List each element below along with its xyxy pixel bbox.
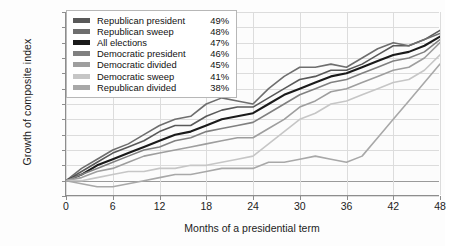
legend-value: 49% [203, 15, 229, 26]
gridline-vertical [440, 12, 441, 195]
x-tick-label: 48 [420, 200, 450, 212]
legend-swatch-icon [73, 18, 90, 23]
legend-value: 47% [203, 37, 229, 48]
x-tick-mark [393, 196, 394, 200]
legend-swatch-icon [73, 74, 90, 79]
legend-label: Republican divided [97, 82, 203, 93]
x-tick-mark [206, 196, 207, 200]
x-tick-label: 42 [373, 200, 413, 212]
legend-label: Democratic sweep [97, 71, 203, 82]
x-tick-label: 0 [46, 200, 86, 212]
x-tick-mark [300, 196, 301, 200]
legend-item: Democratic divided45% [73, 59, 229, 70]
legend-swatch-icon [73, 62, 90, 67]
x-tick-label: 36 [327, 200, 367, 212]
x-tick-mark [160, 196, 161, 200]
x-tick-label: 12 [140, 200, 180, 212]
legend-item: Republican president49% [73, 15, 229, 26]
legend-swatch-icon [73, 40, 90, 45]
legend-value: 45% [203, 59, 229, 70]
x-tick-mark [440, 196, 441, 200]
legend-swatch-icon [73, 85, 90, 90]
y-axis-title: Growth of composite index [21, 12, 33, 192]
legend-item: Republican sweep48% [73, 26, 229, 37]
x-tick-label: 6 [93, 200, 133, 212]
legend-value: 48% [203, 26, 229, 37]
x-tick-label: 30 [280, 200, 320, 212]
legend-label: Republican sweep [97, 26, 203, 37]
legend-value: 38% [203, 82, 229, 93]
legend: Republican president49%Republican sweep4… [66, 10, 237, 98]
x-tick-label: 24 [233, 200, 273, 212]
legend-swatch-icon [73, 51, 90, 56]
legend-item: Democratic sweep41% [73, 70, 229, 81]
legend-swatch-icon [73, 29, 90, 34]
legend-label: Democratic president [97, 48, 203, 59]
x-tick-mark [113, 196, 114, 200]
x-tick-mark [66, 196, 67, 200]
legend-label: Democratic divided [97, 59, 203, 70]
x-tick-label: 18 [186, 200, 226, 212]
legend-value: 41% [203, 71, 229, 82]
legend-label: All elections [97, 37, 203, 48]
legend-item: Democratic president46% [73, 48, 229, 59]
x-tick-mark [347, 196, 348, 200]
x-tick-mark [253, 196, 254, 200]
x-axis-title: Months of a presidential term [65, 222, 439, 234]
legend-item: Republican divided38% [73, 82, 229, 93]
legend-value: 46% [203, 48, 229, 59]
legend-item: All elections47% [73, 37, 229, 48]
legend-label: Republican president [97, 15, 203, 26]
